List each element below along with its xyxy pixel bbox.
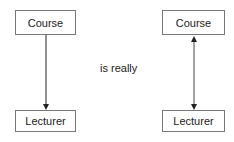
course-box-right: Course <box>162 10 225 35</box>
arrow-up-icon <box>191 36 197 42</box>
course-box-left: Course <box>15 10 76 35</box>
lecturer-label: Lecturer <box>173 115 213 127</box>
course-label: Course <box>176 17 211 29</box>
course-label: Course <box>28 17 63 29</box>
lecturer-label: Lecturer <box>25 115 65 127</box>
is-really-text: is really <box>100 62 137 74</box>
lecturer-box-right: Lecturer <box>162 110 225 132</box>
lecturer-box-left: Lecturer <box>15 110 76 132</box>
